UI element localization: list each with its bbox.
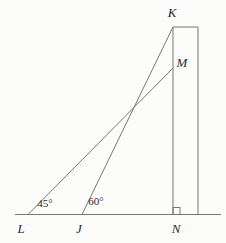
angle-at-J: 60° [88, 195, 103, 207]
sightline-L-to-M [28, 68, 173, 215]
sightline-J-to-K [82, 27, 173, 215]
geometry-canvas: KMLJN45°60° [0, 0, 226, 243]
right-angle-marker [173, 208, 180, 215]
point-label-J: J [76, 221, 83, 236]
point-label-M: M [176, 55, 189, 70]
geometry-diagram: KMLJN45°60° [0, 0, 226, 243]
point-label-K: K [167, 5, 178, 20]
point-label-N: N [171, 221, 182, 236]
point-label-L: L [16, 221, 24, 236]
angle-at-L: 45° [37, 197, 52, 209]
